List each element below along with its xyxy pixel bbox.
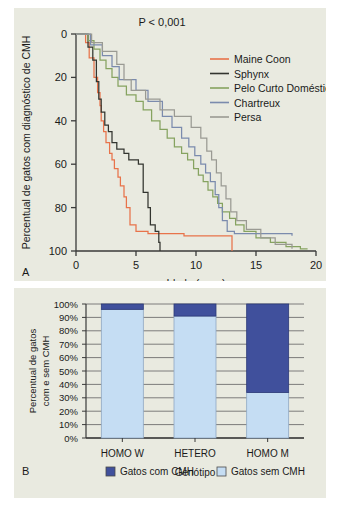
x-axis-title: Idade (anos) [167,277,226,281]
y-axis-tick-label: 80 [55,202,67,214]
legend-label-maine-coon: Maine Coon [234,53,291,65]
y-axis-tick-label: 0% [64,433,78,444]
legend-label-sem-cmh: Gatos sem CMH [231,466,305,477]
survival-chart-svg: 02040608010005101520Percentual de gatos … [14,8,326,281]
y-axis-title-line2: com e sem CMH [40,335,51,406]
survival-curve-pelo-curto-dom-stico [76,34,308,249]
y-axis-tick-label: 70% [59,339,79,350]
pvalue-annotation: P < 0,001 [138,16,185,28]
legend-label-pelo-curto-dom-stico: Pelo Curto Doméstico [234,82,326,94]
y-axis-tick-label: 50% [59,366,79,377]
legend-label-com-cmh: Gatos com CMH [120,466,194,477]
panel-label-a: A [22,266,30,278]
y-axis-tick-label: 100% [54,299,79,310]
survival-curve-persa [76,34,292,249]
x-axis-tick-label: 5 [133,259,139,271]
x-axis-tick-label: 20 [310,259,322,271]
x-axis-category-label: HOMO W [101,448,145,459]
y-axis-tick-label: 60% [59,352,79,363]
y-axis-tick-label: 30% [59,392,79,403]
x-axis-tick-label: 10 [190,259,202,271]
legend-label-sphynx: Sphynx [234,68,270,80]
legend-swatch-sem-cmh [217,467,226,476]
bar-segment-com-cmh [247,304,289,392]
bar-segment-sem-cmh [174,316,216,438]
y-axis-tick-label: 90% [59,312,79,323]
legend-label-persa: Persa [234,111,262,123]
panel-label-b: B [22,465,29,477]
y-axis-tick-label: 100 [49,245,67,257]
y-axis-tick-label: 20% [59,406,79,417]
bar-segment-sem-cmh [101,309,143,438]
bar-segment-sem-cmh [247,392,289,438]
y-axis-tick-label: 0 [61,28,67,40]
y-axis-title-line1: Percentual de gatos [27,329,38,414]
x-axis-category-label: HOMO M [247,448,289,459]
figure-container: 02040608010005101520Percentual de gatos … [0,0,338,506]
x-axis-tick-label: 0 [73,259,79,271]
legend-label-chartreux: Chartreux [234,97,281,109]
y-axis-tick-label: 10% [59,419,79,430]
survival-curve-maine-coon [76,34,232,251]
y-axis-tick-label: 60 [55,158,67,170]
x-axis-category-label: HETERO [174,448,216,459]
legend-swatch-com-cmh [106,467,115,476]
x-axis-tick-label: 15 [250,259,262,271]
panel-a-survival-chart: 02040608010005101520Percentual de gatos … [14,8,326,281]
y-axis-title: Percentual de gatos com diagnóstico de C… [20,36,32,250]
genotype-chart-svg: 0%10%20%30%40%50%60%70%80%90%100%HOMO WH… [14,288,326,498]
y-axis-tick-label: 40% [59,379,79,390]
y-axis-tick-label: 40 [55,115,67,127]
bar-segment-com-cmh [101,304,143,309]
y-axis-tick-label: 80% [59,325,79,336]
y-axis-tick-label: 20 [55,71,67,83]
bar-segment-com-cmh [174,304,216,316]
panel-b-genotype-chart: 0%10%20%30%40%50%60%70%80%90%100%HOMO WH… [14,288,326,498]
